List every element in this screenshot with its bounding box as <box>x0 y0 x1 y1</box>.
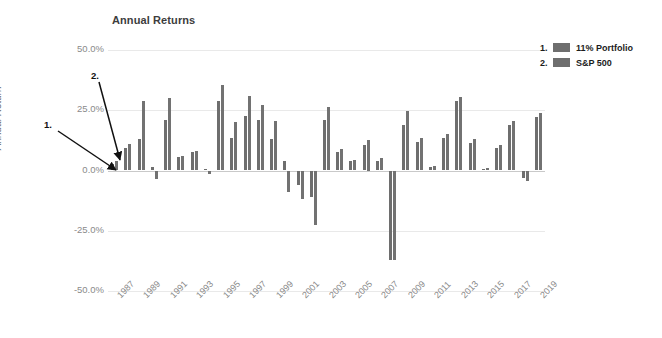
bar <box>420 138 423 171</box>
bar <box>124 148 127 171</box>
bar <box>287 171 290 193</box>
bar <box>164 120 167 171</box>
y-axis-tick: -50.0% <box>52 284 104 295</box>
bar <box>367 140 370 170</box>
bar <box>151 167 154 171</box>
bar <box>204 169 207 170</box>
bar <box>380 158 383 170</box>
bar <box>115 161 118 171</box>
legend-item-sp500[interactable]: 2. S&P 500 <box>540 55 633 70</box>
bar <box>526 171 529 182</box>
bar <box>177 157 180 170</box>
bar <box>168 98 171 170</box>
bar <box>336 152 339 170</box>
bar <box>301 171 304 200</box>
bar <box>155 171 158 179</box>
bar <box>393 171 396 260</box>
bar <box>128 144 131 171</box>
bar <box>429 167 432 171</box>
bar <box>191 152 194 170</box>
legend-label: 11% Portfolio <box>576 43 633 53</box>
bar <box>539 113 542 171</box>
legend-label: S&P 500 <box>576 58 612 68</box>
bar <box>473 139 476 170</box>
bar <box>406 111 409 170</box>
bar <box>455 101 458 171</box>
bar <box>257 120 260 171</box>
y-axis-tick: -25.0% <box>52 224 104 235</box>
bar <box>248 96 251 171</box>
legend-item-portfolio[interactable]: 1. 11% Portfolio <box>540 40 633 55</box>
bar <box>234 122 237 170</box>
bar <box>442 138 445 171</box>
bar <box>297 171 300 185</box>
bar <box>459 97 462 171</box>
bar <box>495 148 498 171</box>
bar <box>363 145 366 170</box>
bar <box>208 171 211 175</box>
bar <box>349 161 352 171</box>
chart-legend: 1. 11% Portfolio 2. S&P 500 <box>540 40 633 70</box>
bar <box>310 171 313 198</box>
y-axis-tick: 50.0% <box>52 43 104 54</box>
legend-swatch-icon <box>553 43 570 52</box>
x-axis-tick-labels: 1987198919911993199519971999200120032005… <box>108 293 545 335</box>
bar <box>402 125 405 171</box>
bar <box>376 161 379 171</box>
bar <box>389 171 392 260</box>
bar <box>535 117 538 170</box>
chart-title: Annual Returns <box>112 14 195 26</box>
legend-swatch-icon <box>553 58 570 67</box>
bar <box>138 139 141 170</box>
bar <box>433 166 436 171</box>
bar <box>314 171 317 225</box>
bar <box>512 121 515 170</box>
y-axis-tick: 25.0% <box>52 103 104 114</box>
bar <box>217 101 220 171</box>
bar <box>111 164 114 170</box>
bar <box>142 101 145 171</box>
bar <box>283 161 286 171</box>
bar <box>270 139 273 170</box>
bar <box>340 149 343 171</box>
plot-area <box>108 50 545 291</box>
bar <box>353 160 356 171</box>
bar <box>261 105 264 170</box>
bar-group <box>108 50 545 291</box>
bar <box>499 145 502 170</box>
bar <box>416 142 419 171</box>
bar <box>327 107 330 171</box>
bar <box>181 156 184 170</box>
annual-returns-chart: Annual Returns 50.0%25.0%0.0%-25.0%-50.0… <box>0 0 662 338</box>
y-axis-tick: 0.0% <box>52 164 104 175</box>
annotation-label-2: 2. <box>91 70 99 81</box>
bar <box>482 169 485 170</box>
legend-number: 2. <box>540 58 553 68</box>
bar <box>221 85 224 171</box>
bar <box>469 143 472 171</box>
legend-number: 1. <box>540 43 553 53</box>
bar <box>522 171 525 178</box>
annotation-label-1: 1. <box>44 119 52 130</box>
bar <box>323 120 326 171</box>
bar <box>195 151 198 170</box>
bar <box>230 138 233 171</box>
bar <box>244 116 247 170</box>
bar <box>274 121 277 170</box>
y-axis-title: Annual Return <box>0 86 3 150</box>
bar <box>508 125 511 171</box>
y-axis-tick-labels: 50.0%25.0%0.0%-25.0%-50.0% <box>48 50 104 291</box>
bar <box>486 168 489 170</box>
bar <box>446 134 449 170</box>
